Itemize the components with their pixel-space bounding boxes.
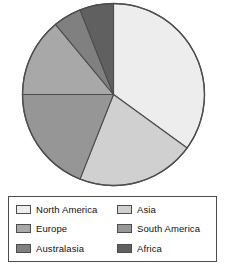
legend-label-asia: Asia — [137, 205, 156, 215]
legend-label-south-america: South America — [137, 224, 200, 234]
legend-item-europe[interactable]: Europe — [16, 224, 117, 234]
legend-swatch-africa — [117, 244, 132, 253]
legend-label-north-america: North America — [36, 205, 98, 215]
legend-item-australasia[interactable]: Australasia — [16, 244, 117, 254]
legend-swatch-australasia — [16, 244, 31, 253]
pie-chart-figure: North America Asia Europe South America … — [0, 0, 227, 273]
legend-swatch-north-america — [16, 205, 31, 214]
legend-swatch-asia — [117, 205, 132, 214]
legend-swatch-europe — [16, 224, 31, 233]
chart-legend: North America Asia Europe South America … — [8, 196, 217, 262]
legend-label-australasia: Australasia — [36, 244, 84, 254]
legend-label-africa: Africa — [137, 244, 162, 254]
pie-chart-svg — [21, 2, 206, 187]
legend-item-south-america[interactable]: South America — [117, 224, 223, 234]
legend-grid: North America Asia Europe South America … — [9, 197, 216, 261]
legend-item-north-america[interactable]: North America — [16, 205, 117, 215]
legend-item-africa[interactable]: Africa — [117, 244, 223, 254]
pie-chart-plot-area — [21, 2, 206, 187]
legend-item-asia[interactable]: Asia — [117, 205, 223, 215]
pie-slice-group — [23, 3, 205, 185]
legend-swatch-south-america — [117, 224, 132, 233]
legend-label-europe: Europe — [36, 224, 67, 234]
